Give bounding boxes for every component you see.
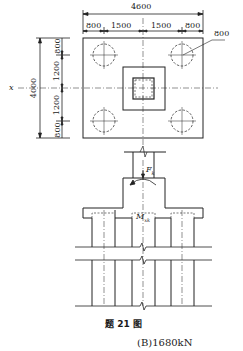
- dim-label-width-seg-1: 800: [86, 22, 101, 30]
- figure-caption: 题 21 图: [105, 317, 142, 330]
- break-lines: [75, 243, 212, 310]
- section-centerlines: [104, 160, 182, 306]
- dim-label-width-seg-3: 1500: [151, 22, 171, 30]
- pedestal-plan: [123, 67, 165, 110]
- column-section: [124, 146, 166, 178]
- pile-bottom-right: [168, 107, 196, 135]
- dim-label-overall-height: 4000: [30, 78, 38, 98]
- dim-label-height-seg-4: 800: [54, 122, 62, 137]
- pile-diameter-label: 800: [214, 30, 229, 38]
- dim-label-width-seg-4: 800: [185, 22, 200, 30]
- dim-label-overall-width: 4600: [131, 3, 151, 11]
- dim-label-height-seg-1: 800: [54, 38, 62, 53]
- moment-symbol: M: [136, 212, 144, 221]
- dim-label-height-seg-2: 1200: [53, 61, 61, 81]
- dim-label-height-seg-3: 1200: [53, 95, 61, 115]
- moment-subscript: xk: [144, 217, 150, 223]
- pile-cap-section-outline: [123, 178, 165, 208]
- force-label: Fk: [146, 166, 155, 177]
- dim-label-width-seg-2: 1500: [111, 22, 131, 30]
- pile-top-right: [168, 41, 196, 69]
- answer-option: (B)1680kN: [137, 337, 192, 348]
- pile-bottom-left: [90, 107, 118, 135]
- pile-diameter-leader: [183, 40, 212, 55]
- force-subscript: k: [152, 170, 155, 176]
- pile-cap-diagram: [0, 0, 243, 351]
- moment-label: Mxk: [136, 213, 150, 224]
- pile-top-left: [90, 41, 118, 69]
- plan-centerlines: [18, 18, 218, 145]
- column-plan: [133, 78, 154, 99]
- axis-label-x: x: [9, 84, 14, 92]
